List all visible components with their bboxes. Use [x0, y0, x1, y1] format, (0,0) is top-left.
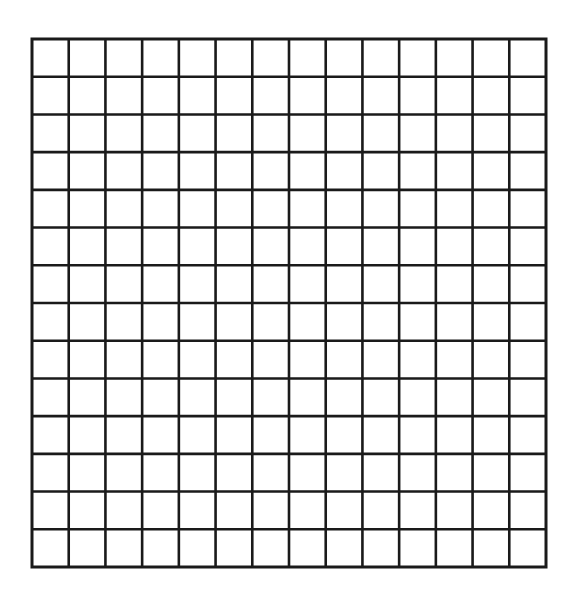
grid-diagram — [0, 0, 577, 594]
